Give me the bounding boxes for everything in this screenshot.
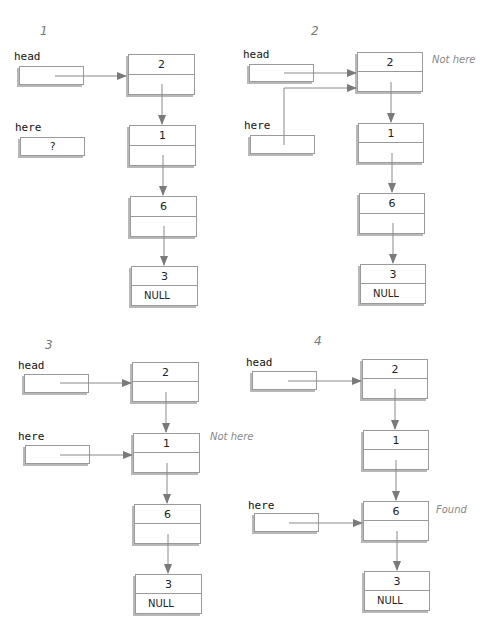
node-data: 3: [365, 572, 429, 591]
head-pointer-box: [19, 66, 84, 85]
head-label: head: [14, 50, 41, 63]
list-node: 1: [363, 430, 429, 470]
list-node: 6: [359, 193, 425, 234]
status-note: Not here: [210, 431, 253, 442]
node-next: [131, 217, 196, 237]
head-label: head: [246, 356, 273, 369]
list-node: 1: [358, 123, 424, 163]
linked-list-search-diagram: 1 head here ? 2 1 6 3 NULL 2 head here N…: [0, 0, 483, 636]
here-pointer-box: [25, 445, 90, 464]
here-label: here: [248, 499, 275, 512]
node-data: 3: [361, 265, 425, 284]
node-next: [130, 146, 195, 166]
node-next: NULL: [136, 594, 201, 613]
node-data: 2: [133, 363, 198, 382]
node-data: 6: [360, 194, 424, 214]
node-data: 2: [358, 53, 422, 72]
node-data: 6: [135, 505, 200, 524]
node-data: 2: [363, 360, 427, 379]
node-next: NULL: [132, 286, 197, 305]
here-label: here: [18, 430, 45, 443]
list-node: 2: [132, 362, 199, 402]
node-data: 1: [359, 124, 423, 143]
list-node: 6: [130, 196, 197, 237]
list-node: 2: [362, 359, 428, 399]
step-number: 3: [45, 338, 53, 352]
node-next: [359, 143, 423, 162]
list-node: 2: [128, 54, 195, 95]
here-label: here: [244, 119, 271, 132]
list-node: 3 NULL: [360, 264, 426, 304]
head-label: head: [18, 359, 45, 372]
node-next: [135, 524, 200, 543]
here-pointer-box: [250, 135, 315, 154]
list-node: 3 NULL: [135, 574, 202, 614]
node-next: [133, 382, 198, 401]
step-number: 4: [314, 334, 322, 348]
node-data: 2: [129, 55, 194, 75]
node-next: [363, 379, 427, 398]
head-pointer-box: [24, 374, 89, 393]
node-next: [129, 75, 194, 95]
node-next: [364, 450, 428, 469]
node-data: 1: [364, 431, 428, 450]
node-next: [360, 214, 424, 234]
here-label: here: [15, 121, 42, 134]
node-next: [364, 521, 428, 540]
list-node: 6: [363, 501, 429, 541]
node-data: 3: [132, 267, 197, 286]
list-node: 2: [357, 52, 423, 92]
node-next: [358, 72, 422, 91]
node-data: 1: [130, 126, 195, 146]
list-node: 6: [134, 504, 201, 544]
node-data: 6: [131, 197, 196, 217]
status-note: Not here: [432, 54, 475, 65]
here-pointer-box: ?: [20, 137, 85, 156]
step-number: 2: [311, 24, 319, 38]
status-note: Found: [436, 504, 467, 515]
list-node: 1: [133, 433, 200, 473]
node-next: NULL: [361, 284, 425, 303]
node-next: [134, 453, 199, 472]
step-number: 1: [40, 24, 48, 38]
head-label: head: [243, 48, 270, 61]
head-pointer-box: [249, 64, 314, 82]
node-data: 1: [134, 434, 199, 453]
list-node: 3 NULL: [131, 266, 198, 306]
list-node: 3 NULL: [364, 571, 430, 611]
list-node: 1: [129, 125, 196, 166]
head-pointer-box: [252, 371, 317, 390]
node-data: 3: [136, 575, 201, 594]
node-data: 6: [364, 502, 428, 521]
node-next: NULL: [365, 591, 429, 610]
here-pointer-box: [254, 513, 319, 532]
